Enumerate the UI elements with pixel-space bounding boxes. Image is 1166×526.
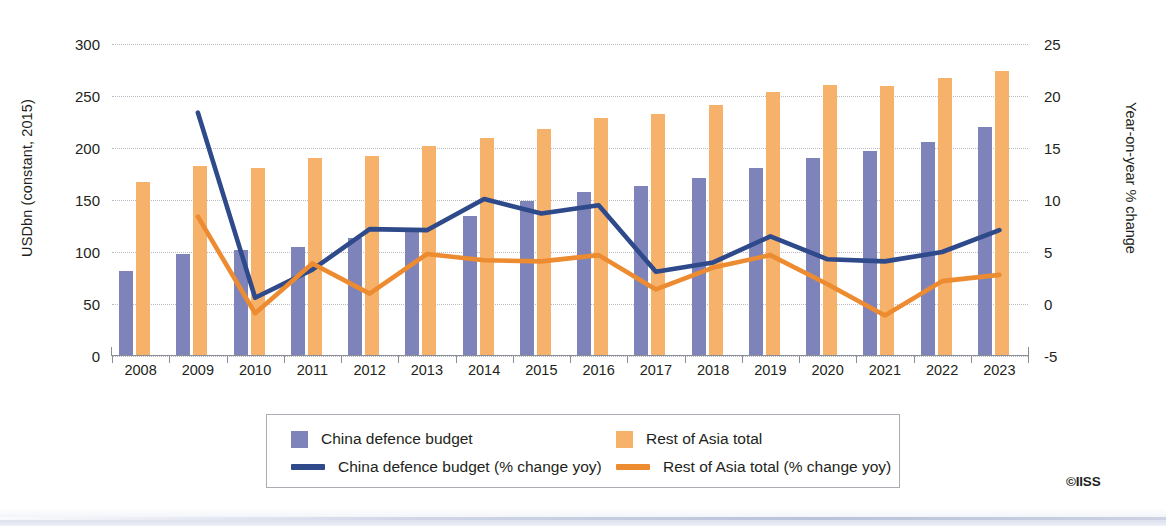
line-series-group	[112, 44, 1028, 356]
x-axis-tick-label: 2014	[454, 362, 514, 378]
x-axis-tick-label: 2010	[225, 362, 285, 378]
chart-legend: China defence budget Rest of Asia total …	[266, 414, 900, 488]
x-axis-line	[112, 355, 1028, 356]
x-axis-tick-label: 2012	[340, 362, 400, 378]
y-axis-tick-label-left: 250	[56, 89, 100, 104]
x-axis-labels: 2008200920102011201220132014201520162017…	[112, 362, 1028, 386]
y-axis-tick-label-right: 25	[1044, 37, 1088, 52]
y-axis-right-cap	[1028, 347, 1029, 356]
x-axis-tick-label: 2017	[626, 362, 686, 378]
legend-swatch-line-icon	[616, 464, 650, 470]
x-axis-tick-label: 2022	[912, 362, 972, 378]
y-axis-tick-label-left: 100	[56, 245, 100, 260]
legend-label: China defence budget (% change yoy)	[338, 458, 602, 476]
x-axis-tick-label: 2023	[969, 362, 1029, 378]
x-axis-tick-label: 2020	[798, 362, 858, 378]
legend-item-china-defence-budget[interactable]: China defence budget	[267, 425, 602, 453]
y-axis-tick-label-left: 0	[56, 349, 100, 364]
scan-edge-band	[0, 508, 1166, 526]
legend-row-bars: China defence budget Rest of Asia total	[267, 425, 899, 453]
legend-swatch-line-icon	[291, 464, 325, 470]
legend-item-rest-of-asia-total[interactable]: Rest of Asia total	[602, 425, 899, 453]
legend-swatch-box-icon	[616, 431, 633, 448]
x-axis-tick-label: 2008	[111, 362, 171, 378]
y-axis-title-left-text: USDbn (constant, 2015)	[19, 99, 35, 257]
x-axis-tick-label: 2021	[855, 362, 915, 378]
y-axis-tick-label-right: -5	[1044, 349, 1088, 364]
legend-label: Rest of Asia total (% change yoy)	[663, 458, 891, 476]
legend-item-china-defence-budget-pct-change[interactable]: China defence budget (% change yoy)	[267, 453, 602, 481]
x-axis-tick-label: 2013	[397, 362, 457, 378]
x-axis-tick-label: 2019	[740, 362, 800, 378]
y-axis-tick-label-right: 10	[1044, 193, 1088, 208]
legend-label: China defence budget	[321, 430, 473, 448]
legend-label: Rest of Asia total	[646, 430, 762, 448]
y-axis-left-cap	[111, 347, 112, 356]
x-axis-tick-label: 2018	[683, 362, 743, 378]
line-rest-of-asia-total-pct-change	[198, 217, 1000, 316]
y-axis-title-right-text: Year-on-year % change	[1123, 102, 1139, 254]
chart-figure: USDbn (constant, 2015) Year-on-year % ch…	[0, 0, 1166, 526]
x-axis-tick-label: 2015	[511, 362, 571, 378]
y-axis-tick-label-right: 15	[1044, 141, 1088, 156]
x-axis-tick-label: 2011	[282, 362, 342, 378]
copyright-credit: ©IISS	[1066, 474, 1100, 489]
legend-item-rest-of-asia-total-pct-change[interactable]: Rest of Asia total (% change yoy)	[602, 453, 899, 481]
y-axis-tick-label-right: 0	[1044, 297, 1088, 312]
x-axis-tick-label: 2009	[168, 362, 228, 378]
y-axis-tick-label-right: 5	[1044, 245, 1088, 260]
legend-row-lines: China defence budget (% change yoy) Rest…	[267, 453, 899, 481]
plot-area	[112, 44, 1028, 356]
x-axis-tick-label: 2016	[569, 362, 629, 378]
line-china-defence-budget-pct-change	[198, 113, 1000, 298]
y-axis-tick-label-left: 50	[56, 297, 100, 312]
y-axis-title-right: Year-on-year % change	[1118, 0, 1144, 356]
y-axis-tick-label-left: 300	[56, 37, 100, 52]
legend-swatch-box-icon	[291, 431, 308, 448]
y-axis-tick-label-left: 150	[56, 193, 100, 208]
y-axis-tick-label-left: 200	[56, 141, 100, 156]
y-axis-tick-label-right: 20	[1044, 89, 1088, 104]
y-axis-title-left: USDbn (constant, 2015)	[14, 0, 40, 356]
